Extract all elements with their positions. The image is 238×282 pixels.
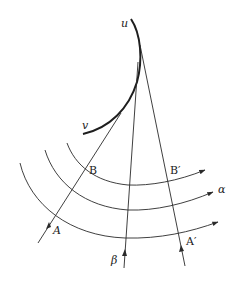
diagram-canvas: u v B B′ A A′ α β (0, 0, 238, 282)
label-v: v (82, 119, 89, 132)
wavefront-middle (45, 150, 213, 210)
ray-beta-arrow-icon (122, 249, 127, 256)
label-beta: β (110, 254, 117, 267)
ray-A-prime-arrow-icon (179, 245, 184, 252)
ray-A-line (38, 113, 121, 243)
label-B: B (89, 164, 97, 177)
wavefront-inner (67, 143, 205, 185)
caustic-curve (83, 19, 140, 134)
label-A: A (52, 224, 61, 237)
label-A-prime: A′ (185, 235, 197, 248)
diagram-figure: u v B B′ A A′ α β (0, 0, 238, 282)
label-B-prime: B′ (170, 164, 181, 177)
label-alpha: α (218, 183, 226, 196)
ray-beta-line (124, 62, 138, 268)
label-u: u (121, 17, 128, 30)
